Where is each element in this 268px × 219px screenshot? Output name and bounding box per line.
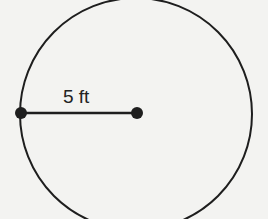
circle-diagram: 5 ft: [0, 0, 268, 219]
radius-label: 5 ft: [63, 86, 90, 107]
center-point: [131, 107, 143, 119]
edge-point: [15, 107, 27, 119]
